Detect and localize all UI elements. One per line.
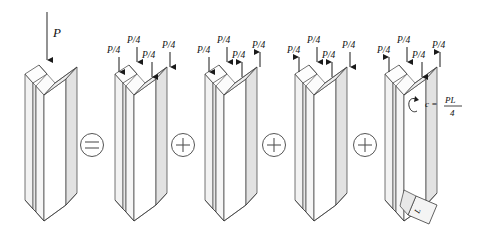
load-label-2: P/4 [126, 35, 140, 45]
beam-group-bending-case-one: P/4 P/4 P/4 P/4 [196, 35, 265, 221]
load-label-3: P/4 [141, 50, 155, 60]
load-label-1: P/4 [196, 45, 210, 55]
ibeam-body [205, 65, 257, 221]
load-label-3: P/4 [231, 50, 245, 60]
ibeam-body [115, 65, 167, 221]
beam-group-original-loaded-beam: P [25, 12, 77, 221]
couple-label-text: c = [425, 99, 437, 109]
operator-equals [81, 134, 104, 157]
load-label-1: P/4 [286, 45, 300, 55]
load-label-4: P/4 [341, 40, 355, 50]
load-label-1: P/4 [106, 45, 120, 55]
beam-group-bending-case-two: P/4 P/4 P/4 P/4 [286, 35, 355, 221]
operator-plus-2 [263, 134, 286, 157]
load-label-3: P/4 [411, 50, 425, 60]
load-label-P: P [52, 25, 61, 40]
operator-plus-3 [354, 134, 377, 157]
load-label-2: P/4 [216, 35, 230, 45]
couple-numerator: PL [444, 95, 456, 105]
load-label-4: P/4 [251, 40, 265, 50]
superposition-diagram: P P/4 P/4 P/4 P/4 P/4 P/4 P/4 P/4 [0, 0, 481, 245]
ibeam-body [25, 65, 77, 221]
ibeam-body [295, 65, 347, 221]
beam-group-torsion-case: P/4 P/4 P/4 P/4 L c = PL 4 [376, 35, 462, 224]
load-label-1: P/4 [376, 45, 390, 55]
operator-plus-1 [172, 134, 195, 157]
load-label-2: P/4 [306, 35, 320, 45]
load-label-4: P/4 [161, 40, 175, 50]
load-label-3: P/4 [321, 50, 335, 60]
beam-group-axial-compression-case: P/4 P/4 P/4 P/4 [106, 35, 175, 221]
couple-denominator: 4 [450, 108, 455, 118]
figure-canvas: P P/4 P/4 P/4 P/4 P/4 P/4 P/4 P/4 [0, 0, 481, 245]
load-label-4: P/4 [431, 40, 445, 50]
load-label-2: P/4 [396, 35, 410, 45]
